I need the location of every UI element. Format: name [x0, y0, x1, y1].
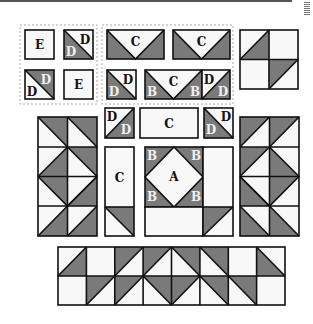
label-d: D [41, 73, 51, 87]
label-a: A [168, 170, 179, 184]
label-d: D [206, 123, 216, 137]
label-d: D [66, 45, 76, 59]
bottom-border-strip [58, 247, 285, 305]
label-e: E [74, 78, 83, 92]
left-border-column [38, 117, 97, 236]
label-d: D [204, 73, 214, 87]
four-patch-block [240, 30, 298, 89]
quilt-diagram: .d { fill: #7a7a7a; } .w { fill: #f8f8f8… [0, 0, 313, 324]
right-border-column [240, 117, 299, 236]
label-d: D [27, 85, 37, 99]
center-square-a: A B B B B [145, 147, 203, 236]
center-block-top: D D C D D [105, 108, 233, 138]
label-d: D [123, 73, 133, 87]
pieces-group-1: E D D D D E [20, 25, 97, 104]
label-c: C [197, 35, 207, 49]
label-c: C [169, 75, 179, 89]
pieces-group-2: C C D D C B B D D [102, 25, 233, 104]
label-d: D [221, 110, 231, 124]
label-b: B [191, 149, 201, 163]
label-d: D [218, 85, 228, 99]
label-d: D [109, 85, 119, 99]
label-b: B [190, 85, 200, 99]
label-e: E [35, 38, 44, 52]
label-d: D [80, 33, 90, 47]
label-b: B [147, 85, 157, 99]
label-c: C [131, 35, 141, 49]
label-d: D [107, 110, 117, 124]
label-b: B [147, 149, 157, 163]
label-d: D [121, 123, 131, 137]
label-c: C [115, 171, 125, 185]
center-c-column: C [105, 147, 134, 236]
center-right-column [203, 147, 233, 236]
label-b: B [191, 190, 201, 204]
label-c: C [164, 117, 174, 131]
label-b: B [147, 190, 157, 204]
